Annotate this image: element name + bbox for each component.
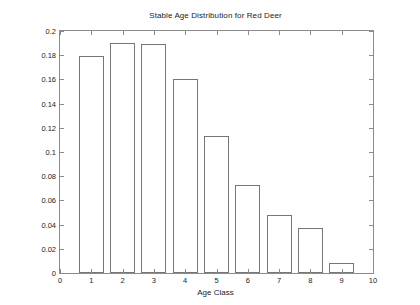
bar-age-class-1 [79,56,104,273]
x-tick-top-7 [279,31,280,35]
y-tick-0.08 [60,176,64,177]
y-tick-right-0.06 [369,200,373,201]
y-tick-label-0.12: 0.12 [41,123,56,132]
y-tick-label-0.18: 0.18 [41,51,56,60]
x-tick-6 [248,269,249,273]
chart-figure: Stable Age Distribution for Red Deer Fra… [0,0,420,305]
y-tick-right-0 [369,273,373,274]
bar-age-class-2 [110,43,135,273]
x-tick-top-1 [91,31,92,35]
x-tick-label-5: 5 [214,276,218,285]
y-tick-right-0.04 [369,225,373,226]
plot-area: Fraction of Population 00.020.040.060.08… [59,30,374,274]
y-tick-label-0.2: 0.2 [46,27,56,36]
x-tick-top-3 [154,31,155,35]
y-tick-right-0.14 [369,104,373,105]
x-axis-title: Age Class [59,288,372,297]
x-tick-label-9: 9 [340,276,344,285]
x-tick-top-6 [248,31,249,35]
bar-age-class-3 [141,44,166,273]
x-tick-top-4 [185,31,186,35]
y-tick-right-0.18 [369,55,373,56]
x-tick-10 [373,269,374,273]
x-tick-0 [60,269,61,273]
y-tick-label-0.06: 0.06 [41,196,56,205]
x-tick-label-1: 1 [89,276,93,285]
x-tick-label-3: 3 [152,276,156,285]
x-tick-top-9 [342,31,343,35]
y-tick-right-0.02 [369,249,373,250]
y-tick-right-0.1 [369,152,373,153]
y-tick-label-0.08: 0.08 [41,172,56,181]
chart-title: Stable Age Distribution for Red Deer [59,11,372,20]
x-tick-5 [217,269,218,273]
bar-age-class-7 [267,215,292,273]
y-tick-0.12 [60,128,64,129]
x-tick-2 [123,269,124,273]
y-tick-0.04 [60,225,64,226]
x-tick-4 [185,269,186,273]
y-tick-0.16 [60,79,64,80]
y-tick-label-0.16: 0.16 [41,75,56,84]
y-tick-right-0.16 [369,79,373,80]
x-tick-label-4: 4 [183,276,187,285]
x-tick-top-2 [123,31,124,35]
x-tick-1 [91,269,92,273]
y-tick-label-0: 0 [52,269,56,278]
y-tick-0.06 [60,200,64,201]
x-tick-label-8: 8 [308,276,312,285]
bar-age-class-6 [235,185,260,273]
x-tick-8 [310,269,311,273]
x-tick-top-5 [217,31,218,35]
x-tick-label-10: 10 [369,276,377,285]
y-tick-0.1 [60,152,64,153]
x-tick-7 [279,269,280,273]
x-tick-label-0: 0 [58,276,62,285]
y-tick-0.14 [60,104,64,105]
y-tick-right-0.12 [369,128,373,129]
x-tick-label-6: 6 [246,276,250,285]
x-tick-top-0 [60,31,61,35]
bar-age-class-8 [298,228,323,273]
y-tick-right-0.08 [369,176,373,177]
y-tick-label-0.14: 0.14 [41,99,56,108]
x-tick-top-8 [310,31,311,35]
y-tick-label-0.1: 0.1 [46,148,56,157]
x-tick-label-2: 2 [121,276,125,285]
x-tick-3 [154,269,155,273]
x-tick-top-10 [373,31,374,35]
y-tick-label-0.02: 0.02 [41,244,56,253]
x-tick-9 [342,269,343,273]
y-tick-0.18 [60,55,64,56]
y-tick-0.02 [60,249,64,250]
bar-age-class-4 [173,79,198,273]
y-tick-0 [60,273,64,274]
y-tick-label-0.04: 0.04 [41,220,56,229]
x-tick-label-7: 7 [277,276,281,285]
bar-age-class-5 [204,136,229,273]
